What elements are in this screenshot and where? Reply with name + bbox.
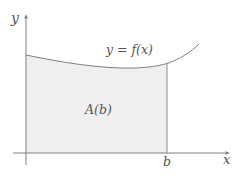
area-under-curve-diagram: y y = f(x) A(b) b x [0,0,244,175]
x-axis-label: x [223,152,231,167]
diagram-svg: y y = f(x) A(b) b x [0,0,244,175]
region-label: A(b) [84,102,112,117]
y-axis-label: y [10,10,20,26]
b-label: b [163,154,171,169]
curve-label: y = f(x) [105,42,153,57]
